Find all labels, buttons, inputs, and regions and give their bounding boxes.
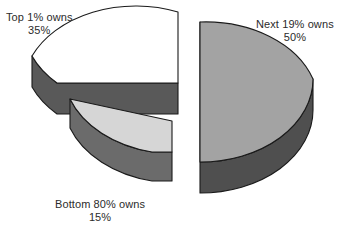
pie-label-bottom-80: Bottom 80% owns 15% bbox=[55, 198, 145, 224]
pie-label-bottom-80-value: 15% bbox=[55, 211, 145, 224]
pie-label-bottom-80-name: Bottom 80% owns bbox=[55, 198, 145, 210]
pie-label-next-19: Next 19% owns 50% bbox=[256, 18, 334, 44]
pie-label-next-19-name: Next 19% owns bbox=[256, 18, 334, 30]
pie-slice-next-19[interactable] bbox=[200, 22, 313, 193]
pie-chart: Top 1% owns 35% Next 19% owns 50% Bottom… bbox=[0, 0, 363, 234]
pie-label-next-19-value: 50% bbox=[256, 31, 334, 44]
pie-label-top-1-value: 35% bbox=[6, 24, 73, 37]
pie-label-top-1-name: Top 1% owns bbox=[6, 11, 73, 23]
pie-label-top-1: Top 1% owns 35% bbox=[6, 11, 73, 37]
